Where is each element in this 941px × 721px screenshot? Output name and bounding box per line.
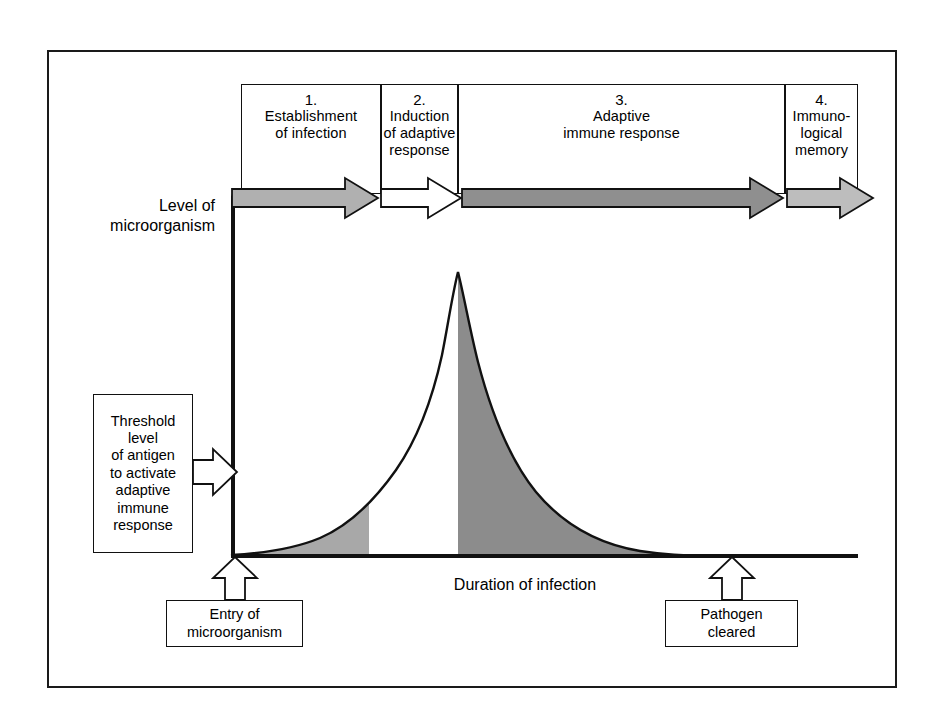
- curve-shade-induction: [369, 250, 458, 560]
- curve-shade-establishment: [232, 250, 369, 560]
- curve-shade-adaptive: [458, 250, 714, 560]
- figure-graphics: [0, 0, 941, 721]
- entry-pointer-arrow: [213, 557, 257, 600]
- cleared-pointer-arrow: [710, 557, 754, 600]
- threshold-pointer-arrow: [193, 449, 237, 495]
- curve-shading-group: [232, 250, 714, 560]
- phase-arrow-1: [232, 178, 378, 218]
- immune-response-figure: 1. Establishment of infection 2. Inducti…: [0, 0, 941, 721]
- phase-arrow-3: [462, 178, 783, 218]
- phase-arrow-2: [381, 178, 461, 218]
- phase-arrow-4: [787, 178, 873, 218]
